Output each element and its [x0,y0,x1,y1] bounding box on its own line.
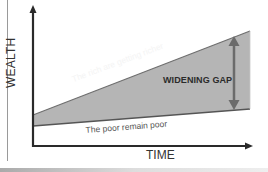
x-axis-label: TIME [146,148,175,162]
wealth-gap-diagram: WEALTH TIME The rich are getting richer … [0,0,268,172]
x-axis-arrow-icon [245,143,253,150]
widening-gap-label: WIDENING GAP [163,75,232,85]
x-axis [32,143,253,150]
y-axis-arrow-icon [30,5,37,13]
y-axis-label: WEALTH [4,38,18,88]
diagram-canvas [0,0,268,172]
bottom-border-bar [0,168,268,172]
